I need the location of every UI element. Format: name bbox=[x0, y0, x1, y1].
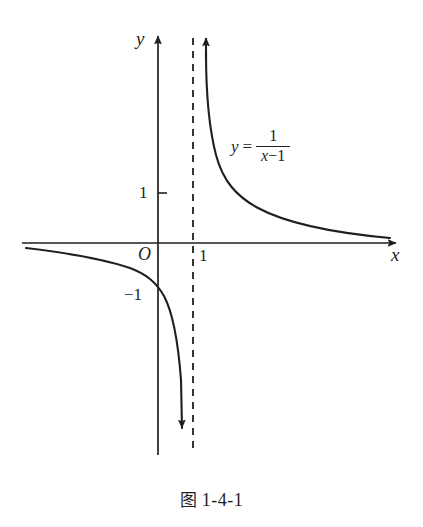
caption-number: 1-4-1 bbox=[197, 490, 244, 510]
figure-caption: 图1-4-1 bbox=[0, 486, 423, 511]
y-tick-label-1: 1 bbox=[139, 184, 148, 201]
equation-equals-sign: = bbox=[242, 138, 254, 155]
equation-annotation: y = 1 x−1 bbox=[231, 128, 290, 165]
y-axis-label: y bbox=[136, 29, 144, 48]
graph-canvas bbox=[0, 0, 423, 527]
x-axis-label: x bbox=[391, 245, 399, 264]
origin-label: O bbox=[138, 245, 151, 263]
y-tick-label-minus-1: −1 bbox=[124, 286, 142, 303]
fraction-numerator: 1 bbox=[266, 128, 280, 146]
x-tick-label-1: 1 bbox=[199, 247, 208, 264]
fraction-denominator-rest: −1 bbox=[268, 147, 285, 164]
equation-lhs: y bbox=[231, 138, 239, 155]
equation-fraction: 1 x−1 bbox=[256, 128, 290, 165]
caption-cjk-word: 图 bbox=[180, 490, 197, 510]
fraction-denominator: x−1 bbox=[259, 147, 287, 165]
figure-container: y x O 1 −1 1 y = 1 x−1 图1-4-1 bbox=[0, 0, 423, 527]
